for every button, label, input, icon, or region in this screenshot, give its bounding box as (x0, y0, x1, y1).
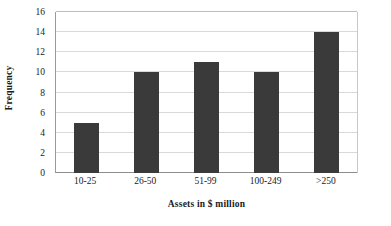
bar-slot (176, 12, 236, 173)
x-tick-label: 100-249 (236, 176, 296, 186)
y-tick-label: 2 (40, 148, 45, 158)
y-tick-label: 0 (40, 168, 45, 178)
x-tick-label: 26-50 (115, 176, 175, 186)
bar (74, 123, 99, 173)
y-tick-label: 10 (36, 67, 46, 77)
y-axis-tick-labels: 0246810121416 (24, 12, 50, 173)
x-tick-label: 51-99 (175, 176, 235, 186)
y-axis-title: Frequency (0, 0, 18, 175)
plot-area (55, 12, 358, 173)
x-axis-tick-labels: 10-2526-5051-99100-249>250 (55, 176, 358, 192)
y-tick-label: 14 (36, 27, 46, 37)
bar (134, 72, 159, 173)
bar (254, 72, 279, 173)
bar (314, 32, 339, 173)
x-tick-label: 10-25 (55, 176, 115, 186)
y-tick-label: 12 (36, 47, 46, 57)
y-tick-label: 8 (40, 88, 45, 98)
x-axis-title: Assets in $ million (55, 199, 358, 209)
y-axis-title-text: Frequency (4, 65, 14, 110)
y-tick-label: 16 (36, 7, 46, 17)
bar-slot (237, 12, 297, 173)
y-tick-label: 6 (40, 108, 45, 118)
bar-slot (116, 12, 176, 173)
bar-slot (297, 12, 357, 173)
bar-chart: Frequency 0246810121416 10-2526-5051-991… (0, 0, 391, 226)
x-tick-label: >250 (296, 176, 356, 186)
bar-series (56, 12, 357, 173)
y-tick-label: 4 (40, 128, 45, 138)
bar (194, 62, 219, 173)
bar-slot (56, 12, 116, 173)
